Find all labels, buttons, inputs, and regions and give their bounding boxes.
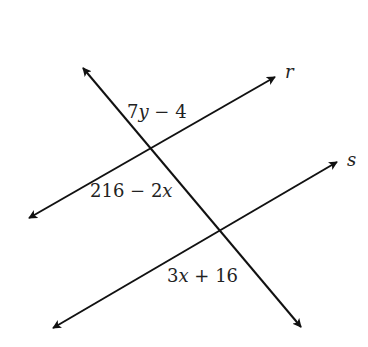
angle-label-left: 216 − 2x [90,180,173,201]
parallel-lines-diagram: r s 7y − 4 216 − 2x 3x + 16 [0,0,368,347]
angle-label-top: 7y − 4 [127,101,187,122]
label-r: r [285,61,295,82]
label-s: s [347,149,356,170]
angle-label-bottom: 3x + 16 [167,265,238,286]
